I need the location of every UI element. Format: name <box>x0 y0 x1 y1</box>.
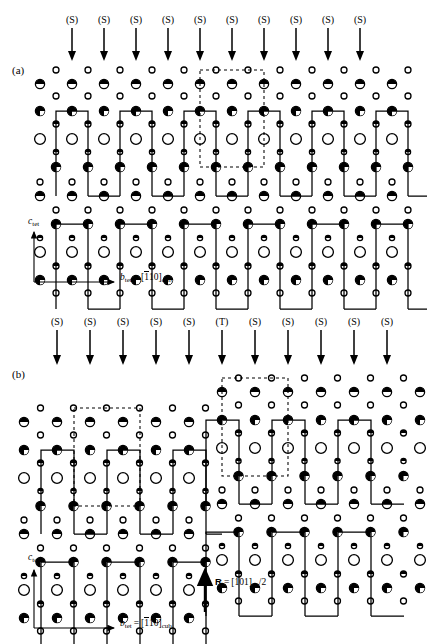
atom-small-open <box>401 402 407 408</box>
atom-quarter-filled <box>415 583 424 592</box>
atom-small-open <box>341 207 347 213</box>
atom-large-open <box>52 473 63 484</box>
atom-quarter-filled <box>85 445 94 454</box>
atom-small-open <box>236 515 242 521</box>
bond-polyline <box>41 450 222 534</box>
atom-quarter-filled <box>382 583 391 592</box>
atom-large-open <box>355 247 366 258</box>
atom-small-open <box>229 179 235 185</box>
atom-small-half-filled <box>417 543 422 548</box>
atom-small-open <box>181 207 187 213</box>
atom-half-filled <box>316 387 325 396</box>
atom-small-open <box>186 517 192 523</box>
atom-quarter-filled <box>387 275 396 284</box>
atom-small-open <box>335 375 341 381</box>
atom-small-open <box>293 179 299 185</box>
b-axis-equals: = <box>134 272 139 282</box>
atom-small-open <box>309 67 315 73</box>
atom-small-half-filled <box>197 235 202 240</box>
atom-small-open <box>401 515 407 521</box>
atom-small-open <box>37 179 43 185</box>
atom-half-filled <box>323 79 332 88</box>
atom-small-open <box>85 93 91 99</box>
atom-half-filled <box>323 191 332 200</box>
atom-small-open <box>389 179 395 185</box>
atom-large-open <box>151 473 162 484</box>
atom-large-open <box>316 555 327 566</box>
atom-half-filled <box>163 79 172 88</box>
atom-large-open <box>99 134 110 145</box>
atom-large-open <box>382 555 393 566</box>
atom-quarter-filled <box>316 583 325 592</box>
atom-large-open <box>131 134 142 145</box>
atom-half-filled <box>131 191 140 200</box>
atom-small-open <box>117 93 123 99</box>
atom-half-filled <box>291 79 300 88</box>
atom-half-filled <box>52 417 61 426</box>
atom-quarter-filled <box>99 106 108 115</box>
atom-small-open <box>85 67 91 73</box>
atom-quarter-filled <box>291 106 300 115</box>
atom-small-open <box>53 93 59 99</box>
atom-quarter-filled <box>399 527 408 536</box>
atom-quarter-filled <box>415 415 424 424</box>
b-axis-sub: tet <box>125 276 132 284</box>
atom-small-half-filled <box>384 543 389 548</box>
atom-quarter-filled <box>163 106 172 115</box>
atom-quarter-filled <box>259 275 268 284</box>
atom-large-open <box>184 473 195 484</box>
atom-small-half-filled <box>285 543 290 548</box>
atom-small-open <box>181 93 187 99</box>
atom-half-filled <box>131 79 140 88</box>
panel-b-b-axis-label: btet=[110]cub <box>120 618 172 630</box>
atom-quarter-filled <box>227 106 236 115</box>
atom-small-open <box>373 67 379 73</box>
atom-quarter-filled <box>283 583 292 592</box>
b-axis-index-sub-b: cub <box>162 622 172 630</box>
atom-large-open <box>184 585 195 596</box>
atom-small-open <box>335 515 341 521</box>
atom-small-open <box>261 179 267 185</box>
atom-small-open <box>384 487 390 493</box>
atom-quarter-filled <box>227 275 236 284</box>
panel-a-c-axis-label: ctet <box>28 216 39 228</box>
atom-small-open <box>197 179 203 185</box>
atom-small-half-filled <box>252 543 257 548</box>
atom-large-open <box>291 247 302 258</box>
atom-small-open <box>170 432 176 438</box>
atom-half-filled <box>349 499 358 508</box>
atom-small-half-filled <box>318 543 323 548</box>
atom-small-open <box>269 402 275 408</box>
atom-small-open <box>285 487 291 493</box>
atom-small-open <box>351 487 357 493</box>
b-axis-index-sub: cub <box>162 276 172 284</box>
b-axis-sub-b: tet <box>125 622 132 630</box>
atom-small-half-filled <box>261 235 266 240</box>
atom-large-open <box>118 473 129 484</box>
atom-large-open <box>291 134 302 145</box>
atom-small-open <box>38 405 44 411</box>
atom-small-open <box>309 207 315 213</box>
atom-small-half-filled <box>219 543 224 548</box>
atom-small-open <box>269 515 275 521</box>
atom-small-open <box>104 432 110 438</box>
atom-small-half-filled <box>357 235 362 240</box>
panel-b: (b) (S)(S)(S)(S)(S)(T)(S)(S)(S)(S)(S) ct… <box>0 300 427 644</box>
atom-half-filled <box>217 499 226 508</box>
atom-half-filled <box>118 529 127 538</box>
atom-quarter-filled <box>151 445 160 454</box>
b-axis-index-rest-b: 10] <box>149 618 162 628</box>
atom-half-filled <box>67 79 76 88</box>
atom-small-open <box>21 517 27 523</box>
atom-half-filled <box>19 529 28 538</box>
atom-small-open <box>252 487 258 493</box>
atom-half-filled <box>415 499 424 508</box>
b-axis-index-bar-digit: 1 <box>144 272 149 282</box>
atom-large-open <box>250 555 261 566</box>
atom-small-open <box>213 93 219 99</box>
atom-large-open <box>163 247 174 258</box>
bond-polyline <box>56 111 427 196</box>
atom-small-open <box>133 179 139 185</box>
atom-small-open <box>153 517 159 523</box>
atom-small-open <box>373 93 379 99</box>
